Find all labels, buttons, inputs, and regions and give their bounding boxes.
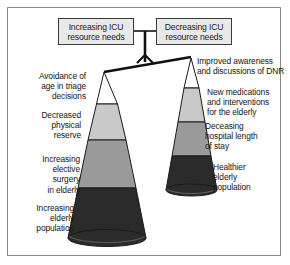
right-label-new-medications-and-interventions-for-the-elderly: New medications and interventions for th… bbox=[207, 87, 289, 118]
left-cone-band-1 bbox=[97, 72, 118, 104]
left-cone-band-2 bbox=[88, 104, 126, 140]
left-cone-base-ellipse bbox=[68, 230, 146, 247]
left-label-avoidance-of-age-in-triage-decisions: Avoidance of age in triage decisions bbox=[26, 71, 86, 102]
right-label-healthier-elderly-population: Healthier elderly population bbox=[213, 162, 283, 193]
right-label-deceasing-hospital-length-of-stay: Deceasing hospital length of stay bbox=[205, 121, 283, 152]
figure-root: Increasing ICU resource needs Decreasing… bbox=[0, 0, 290, 265]
right-cone-base-ellipse bbox=[166, 184, 217, 196]
right-label-improved-awareness-and-discussions-of-dnr: Improved awareness and discussions of DN… bbox=[197, 56, 289, 76]
balance-beam bbox=[104, 57, 191, 72]
left-cone-band-3 bbox=[78, 140, 136, 188]
right-cone-band-2 bbox=[178, 88, 205, 122]
left-label-decreased-physical-reserve: Decreased physical reserve bbox=[21, 110, 81, 141]
left-label-increasing-elective-surgery-in-elderly: Increasing elective surgery in elderly bbox=[10, 154, 80, 195]
box-decreasing-icu-resource-needs[interactable]: Decreasing ICU resource needs bbox=[156, 18, 232, 45]
left-label-increasing-elderly-population: Increasing elderly population bbox=[6, 203, 74, 234]
box-increasing-icu-resource-needs[interactable]: Increasing ICU resource needs bbox=[58, 18, 134, 45]
